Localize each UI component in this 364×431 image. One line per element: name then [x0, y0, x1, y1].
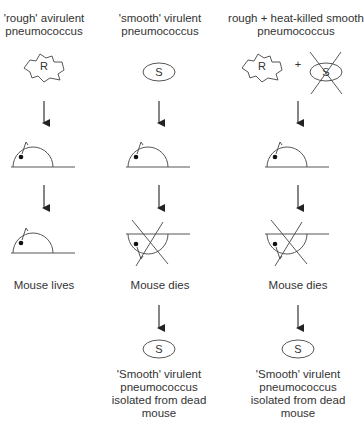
live-mouse-icon [11, 142, 75, 167]
live-mouse-icon [265, 142, 329, 167]
plus-sign: + [295, 58, 301, 70]
col3-isolated-line4: mouse [243, 407, 353, 420]
col2-isolated-line1: 'Smooth' virulent [104, 368, 214, 381]
col2-isolated-caption: 'Smooth' virulent pneumococcus isolated … [104, 368, 214, 420]
col1-outcome: Mouse lives [0, 279, 88, 292]
col2-organism-letter: S [155, 66, 162, 78]
col2-isolated-line2: pneumococcus [104, 381, 214, 394]
col3-organism-letter: R [258, 60, 266, 72]
experiment-diagram: R S S R + S S [0, 0, 364, 431]
col3-isolated-letter: S [294, 343, 301, 355]
rough-organism-icon: R [242, 54, 282, 82]
col1-organism-letter: R [40, 60, 48, 72]
cross-out-icon [311, 52, 341, 94]
live-mouse-icon [126, 142, 190, 167]
col2-isolated-letter: S [155, 343, 162, 355]
live-mouse-icon [11, 228, 75, 253]
col3-isolated-line3: isolated from dead [243, 394, 353, 407]
isolated-smooth-organism-icon: S [143, 340, 175, 358]
dead-mouse-icon [265, 220, 329, 266]
col2-isolated-line3: isolated from dead [104, 394, 214, 407]
rough-organism-icon: R [24, 54, 64, 82]
col2-isolated-line4: mouse [104, 407, 214, 420]
col3-isolated-line1: 'Smooth' virulent [243, 368, 353, 381]
col3-isolated-caption: 'Smooth' virulent pneumococcus isolated … [243, 368, 353, 420]
smooth-organism-icon: S [143, 63, 175, 81]
heat-killed-smooth-organism-icon: S [310, 52, 342, 94]
col3-outcome: Mouse dies [250, 279, 346, 292]
dead-mouse-icon [126, 220, 190, 266]
isolated-smooth-organism-icon: S [282, 340, 314, 358]
col2-outcome: Mouse dies [112, 279, 208, 292]
col3-isolated-line2: pneumococcus [243, 381, 353, 394]
